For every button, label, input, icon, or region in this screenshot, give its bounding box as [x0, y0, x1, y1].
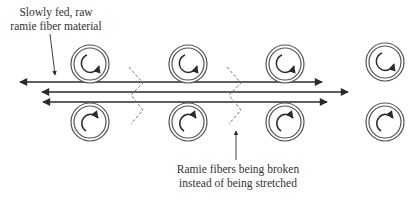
bottom-roller-3 [266, 103, 304, 141]
broken-annotation-line1: Ramie fibers being broken [170, 162, 306, 176]
feed-annotation-line2: ramie fiber material [8, 19, 104, 33]
ramie-drafting-diagram: Slowly fed, raw ramie fiber material Ram… [0, 0, 418, 200]
broken-annotation: Ramie fibers being broken instead of bei… [170, 162, 306, 190]
feed-pointer-arrow [50, 34, 55, 75]
broken-annotation-line2: instead of being stretched [170, 176, 306, 190]
feed-annotation: Slowly fed, raw ramie fiber material [8, 5, 104, 33]
bottom-roller-1 [71, 103, 109, 141]
feed-annotation-line1: Slowly fed, raw [8, 5, 104, 19]
break-zigzag-2 [227, 67, 241, 124]
fiber-lines [20, 82, 348, 102]
bottom-roller-2 [169, 103, 207, 141]
top-rollers [71, 43, 404, 83]
bottom-rollers [71, 103, 404, 141]
top-roller-4 [366, 43, 404, 81]
bottom-roller-4 [366, 103, 404, 141]
top-roller-2 [169, 45, 207, 83]
top-roller-1 [71, 45, 109, 83]
break-zigzag-1 [129, 67, 143, 124]
top-roller-3 [266, 45, 304, 83]
